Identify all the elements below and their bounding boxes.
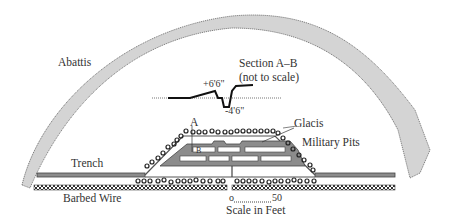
- scale-start-label: o: [229, 193, 234, 203]
- glacis-label: Glacis: [294, 118, 323, 130]
- fort-body: [160, 141, 305, 166]
- abattis-label: Abattis: [58, 57, 91, 69]
- scale-end-label: 50: [272, 193, 282, 203]
- trench-label: Trench: [71, 158, 103, 170]
- point-a-label: A: [190, 117, 198, 129]
- barbed-wire-left: [34, 185, 227, 190]
- military-pits-label: Military Pits: [302, 137, 360, 149]
- height-minus-label: -4'6": [225, 106, 244, 116]
- height-plus-label: +6'6": [203, 79, 225, 89]
- trench-right: [315, 173, 395, 177]
- section-note-label: (not to scale): [239, 72, 299, 84]
- scale-caption-label: Scale in Feet: [226, 205, 285, 217]
- barbed-wire-right: [232, 185, 395, 190]
- barbed-wire-label: Barbed Wire: [63, 193, 121, 205]
- point-b-label: B: [196, 147, 201, 155]
- section-title-label: Section A–B: [239, 58, 297, 70]
- trench-left: [37, 173, 145, 177]
